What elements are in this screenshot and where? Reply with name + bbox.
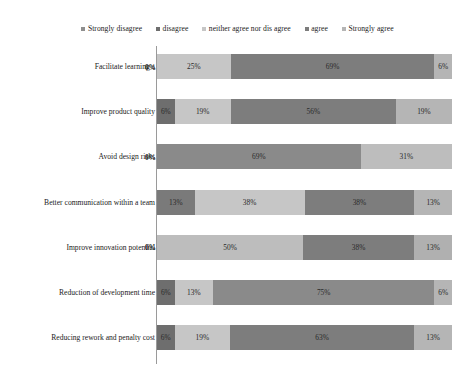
segment-value-label: 6% [161,288,171,297]
bar-segment[interactable]: 13% [414,235,452,260]
segment-value-label: 75% [317,288,331,297]
legend-swatch-icon [305,27,309,31]
segment-value-label: 31% [399,152,413,161]
segment-value-label: 38% [352,243,366,252]
legend-swatch-icon [81,27,85,31]
legend-item[interactable]: Strongly disagree [81,24,142,33]
legend-swatch-icon [202,27,206,31]
bar-segment[interactable]: 63% [230,325,414,350]
bar-segment[interactable]: 13% [157,190,195,215]
segment-value-label: 13% [169,198,183,207]
segment-value-label: 6% [161,107,171,116]
category-label: Improve product quality [0,99,155,124]
bar-segment[interactable]: 6% [434,280,452,305]
segment-value-label: 0% [145,243,156,252]
category-label: Avoid design risks [0,144,155,169]
category-label: Improve innovation potential [0,235,155,260]
segment-value-label: 69% [326,62,340,71]
segment-value-label: 6% [161,333,171,342]
bar-segment[interactable]: 38% [195,190,305,215]
legend-item[interactable]: disagree [156,24,188,33]
segment-value-label: 13% [187,288,201,297]
segment-value-label: 38% [353,198,367,207]
segment-value-label: 56% [307,107,321,116]
bar-segment[interactable]: 6% [434,54,452,79]
segment-value-label: 6% [438,62,448,71]
legend-item[interactable]: neither agree nor dis agree [202,24,290,33]
legend-item[interactable]: Strongly agree [342,24,394,33]
category-label: Better communication within a team [0,190,155,215]
bar-segment[interactable]: 69% [157,144,361,169]
legend-label: agree [311,24,328,33]
legend-label: disagree [163,24,189,33]
bar-segment[interactable]: 50% [157,235,303,260]
segment-value-label: 19% [196,107,210,116]
segment-value-label: 13% [426,243,440,252]
bar-segment[interactable]: 31% [361,144,452,169]
segment-value-label: 13% [426,333,440,342]
bar-segment[interactable]: 13% [414,190,452,215]
bar-row[interactable]: Facilitate learning a0%25%69%6% [157,54,452,79]
legend-swatch-icon [156,27,160,31]
segment-value-label: 6% [438,288,448,297]
bar-segment[interactable]: 38% [305,190,415,215]
bar-segment[interactable]: 13% [414,325,452,350]
bar-segment[interactable]: 25% [157,54,231,79]
bar-row[interactable]: Improve product quality6%19%56%19% [157,99,452,124]
plot-area: Facilitate learning a0%25%69%6%Improve p… [157,46,452,364]
bar-segment[interactable]: 6% [157,280,175,305]
category-label: Facilitate learning a [0,54,155,79]
bar-row[interactable]: Improve innovation potential0%50%38%13% [157,235,452,260]
segment-value-label: 69% [252,152,266,161]
bar-segment[interactable]: 13% [175,280,213,305]
bar-segment[interactable]: 6% [157,99,175,124]
segment-value-label: 19% [417,107,431,116]
segment-value-label: 0% [145,152,156,161]
segment-value-label: 63% [315,333,329,342]
segment-value-label: 19% [195,333,209,342]
bar-segment[interactable]: 38% [303,235,414,260]
segment-value-label: 25% [187,62,201,71]
bar-segment[interactable]: 19% [175,99,231,124]
legend-label: Strongly agree [348,24,393,33]
category-label: Reducing rework and penalty cost [0,325,155,350]
legend-label: neither agree nor dis agree [209,24,291,33]
bar-segment[interactable]: 6% [157,325,175,350]
category-label: Reduction of development time [0,280,155,305]
segment-value-label: 38% [243,198,257,207]
segment-value-label: 50% [223,243,237,252]
legend-item[interactable]: agree [305,24,328,33]
bar-row[interactable]: Better communication within a team13%38%… [157,190,452,215]
legend-swatch-icon [342,27,346,31]
bar-segment[interactable]: 69% [231,54,435,79]
stacked-bar-chart: Strongly disagreedisagreeneither agree n… [0,0,475,378]
bar-row[interactable]: Reducing rework and penalty cost6%19%63%… [157,325,452,350]
bar-segment[interactable]: 75% [213,280,434,305]
bar-row[interactable]: Reduction of development time6%13%75%6% [157,280,452,305]
chart-legend: Strongly disagreedisagreeneither agree n… [0,24,475,33]
legend-label: Strongly disagree [88,24,142,33]
segment-value-label: 13% [426,198,440,207]
bar-segment[interactable]: 56% [231,99,396,124]
bar-row[interactable]: Avoid design risks0%69%31% [157,144,452,169]
bar-segment[interactable]: 19% [396,99,452,124]
bar-segment[interactable]: 19% [175,325,231,350]
segment-value-label: 0% [145,62,156,71]
